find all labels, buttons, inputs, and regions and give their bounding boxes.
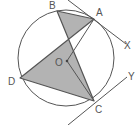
label-D: D <box>8 76 15 87</box>
label-X: X <box>124 40 131 51</box>
label-C: C <box>95 104 102 115</box>
label-Y: Y <box>128 71 135 82</box>
label-A: A <box>96 7 103 18</box>
geometry-diagram: B A X O D Y C <box>0 0 137 125</box>
label-B: B <box>49 0 56 11</box>
center-point <box>66 60 69 63</box>
label-O: O <box>55 57 63 68</box>
